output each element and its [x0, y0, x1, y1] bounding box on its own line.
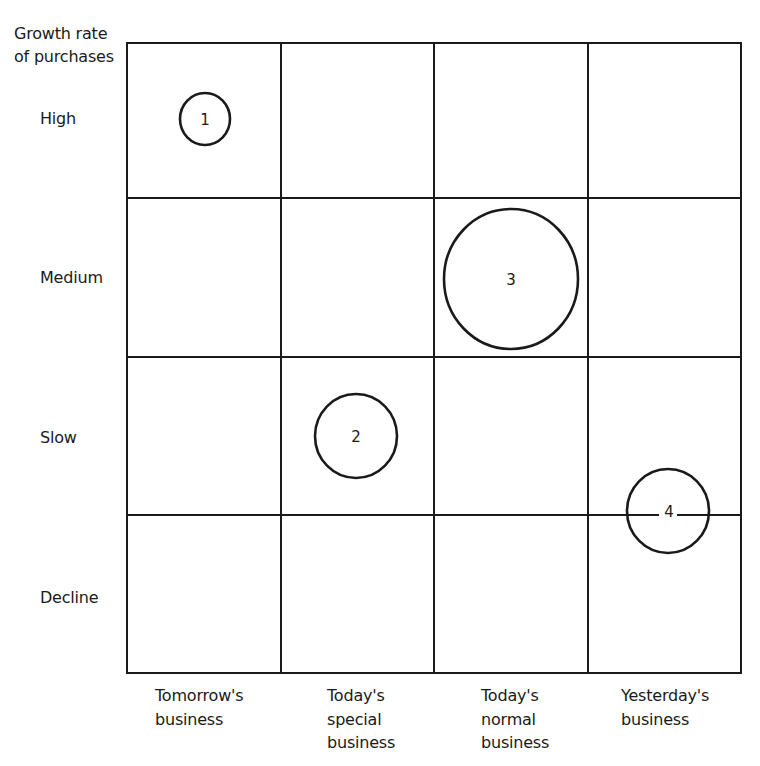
column-label-todays-normal-business: Today's normal business	[481, 684, 549, 755]
matrix-grid: 1 2 3 4	[0, 0, 760, 766]
bubble-3-label: 3	[506, 271, 516, 289]
bubble-4-label: 4	[664, 503, 674, 521]
bubble-2-label: 2	[351, 428, 361, 446]
column-label-line: business	[621, 708, 709, 732]
column-label-line: Today's	[327, 684, 395, 708]
column-label-line: business	[481, 731, 549, 755]
column-label-line: Today's	[481, 684, 549, 708]
column-label-line: special	[327, 708, 395, 732]
column-label-line: normal	[481, 708, 549, 732]
bubble-1-label: 1	[200, 111, 210, 129]
column-label-line: business	[327, 731, 395, 755]
column-label-line: Yesterday's	[621, 684, 709, 708]
column-label-line: Tomorrow's	[155, 684, 243, 708]
column-label-tomorrows-business: Tomorrow's business	[155, 684, 243, 731]
grid-lines	[127, 43, 741, 673]
column-label-todays-special-business: Today's special business	[327, 684, 395, 755]
column-label-line: business	[155, 708, 243, 732]
column-label-yesterdays-business: Yesterday's business	[621, 684, 709, 731]
